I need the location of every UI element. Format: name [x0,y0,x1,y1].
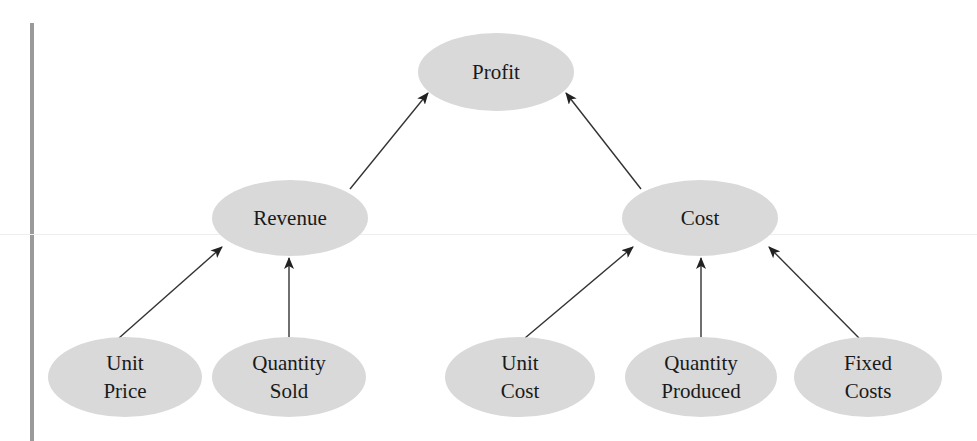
diagram-canvas: ProfitRevenueCostUnitPriceQuantitySoldUn… [0,0,977,441]
node-ellipse [48,337,202,417]
node-label: Quantity [664,351,738,375]
profit-tree-diagram: ProfitRevenueCostUnitPriceQuantitySoldUn… [0,0,977,441]
node-label: Fixed [844,351,892,375]
node-label: Cost [501,379,540,403]
node-label: Cost [681,206,720,230]
node-label: Produced [661,379,741,403]
node-revenue: Revenue [212,180,368,256]
arrow-revenue-to-profit [350,93,428,189]
node-ellipse [212,337,366,417]
node-quantity-sold: QuantitySold [212,337,366,417]
nodes: ProfitRevenueCostUnitPriceQuantitySoldUn… [48,33,942,417]
node-label: Revenue [253,206,326,230]
node-label: Profit [472,60,520,84]
node-fixed-costs: FixedCosts [794,337,942,417]
node-label: Unit [501,351,539,375]
node-ellipse [794,337,942,417]
node-label: Quantity [252,351,326,375]
node-unit-cost: UnitCost [445,337,595,417]
node-cost: Cost [622,180,778,256]
node-ellipse [625,337,777,417]
node-quantity-produced: QuantityProduced [625,337,777,417]
arrow-unit-cost-to-cost [525,247,633,338]
node-label: Sold [270,379,309,403]
node-label: Costs [845,379,892,403]
arrow-unit-price-to-revenue [119,247,222,338]
node-label: Unit [106,351,144,375]
arrow-fixed-costs-to-cost [769,247,859,338]
node-label: Price [103,379,146,403]
arrow-cost-to-profit [566,93,641,189]
node-unit-price: UnitPrice [48,337,202,417]
node-ellipse [445,337,595,417]
node-profit: Profit [418,33,574,111]
